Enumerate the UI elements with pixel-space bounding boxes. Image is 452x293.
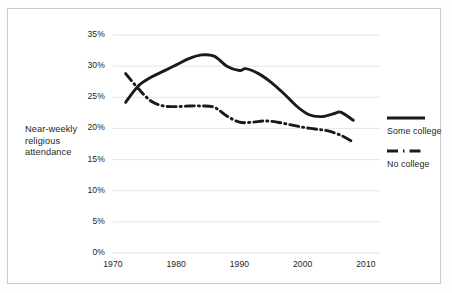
- axis-title-text-3: attendance: [25, 147, 71, 157]
- x-tick-label-1980: 1980: [156, 259, 196, 269]
- y-tick-label-0: 0%: [73, 247, 105, 257]
- x-tick-label-1970: 1970: [93, 259, 133, 269]
- y-tick-label-10: 10%: [73, 185, 105, 195]
- legend-label-some-college: Some college: [387, 126, 442, 136]
- chart-figure: Near-weekly religious attendance 0%5%10%…: [0, 0, 452, 293]
- y-tick-label-5: 5%: [73, 216, 105, 226]
- axis-title-text-1: Near-weekly: [25, 124, 77, 134]
- y-tick-label-15: 15%: [73, 154, 105, 164]
- x-tick-label-1990: 1990: [220, 259, 260, 269]
- x-tick-label-2010: 2010: [346, 259, 386, 269]
- y-tick-label-25: 25%: [73, 91, 105, 101]
- y-tick-label-30: 30%: [73, 60, 105, 70]
- axis-title-text-2: religious: [25, 136, 60, 146]
- legend-label-no-college: No college: [387, 159, 430, 169]
- y-axis-title-line-2: religious: [25, 136, 103, 148]
- x-tick-label-2000: 2000: [283, 259, 323, 269]
- y-tick-label-35: 35%: [73, 29, 105, 39]
- y-tick-label-20: 20%: [73, 122, 105, 132]
